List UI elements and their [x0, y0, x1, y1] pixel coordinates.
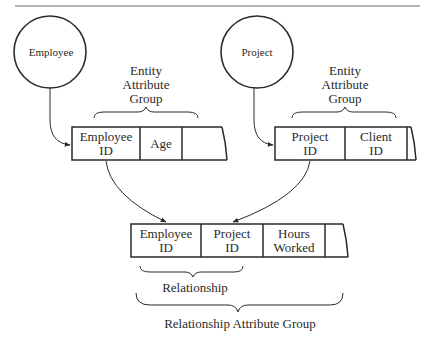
employee-id-cell: Employee — [80, 129, 133, 144]
employee-table: Employee ID Age — [72, 127, 227, 160]
label-line: Entity — [130, 63, 162, 78]
label-line: Group — [129, 91, 162, 106]
er-diagram: Employee Project Entity Attribute Group … — [0, 0, 431, 339]
employee-attribute-group-label: Entity Attribute Group — [123, 63, 170, 106]
rel-project-id-cell-2: ID — [225, 240, 239, 255]
client-id-cell-2: ID — [369, 143, 383, 158]
employee-to-table-arrow — [50, 88, 70, 145]
project-group-brace — [292, 107, 396, 118]
label-line: Attribute — [322, 77, 369, 92]
employee-id-cell-2: ID — [99, 143, 113, 158]
relationship-attribute-group-brace — [136, 293, 343, 312]
rel-employee-id-cell-2: ID — [159, 240, 173, 255]
rel-project-id-cell: Project — [214, 226, 251, 241]
project-entity: Project — [221, 16, 293, 88]
client-id-cell: Client — [360, 129, 392, 144]
project-entity-label: Project — [241, 46, 272, 58]
relationship-attribute-group-label: Relationship Attribute Group — [164, 316, 316, 331]
project-table: Project ID Client ID — [275, 127, 416, 160]
employee-id-to-relationship-arrow — [106, 161, 166, 222]
label-line: Entity — [329, 63, 361, 78]
employee-group-brace — [94, 107, 198, 118]
project-id-cell: Project — [292, 129, 329, 144]
employee-entity: Employee — [14, 16, 86, 88]
relationship-label: Relationship — [162, 280, 228, 295]
hours-worked-cell: Hours — [278, 226, 310, 241]
hours-worked-cell-2: Worked — [274, 240, 315, 255]
relationship-table: Employee ID Project ID Hours Worked — [131, 224, 348, 257]
employee-entity-label: Employee — [29, 46, 74, 58]
relationship-brace — [140, 266, 243, 277]
label-line: Group — [328, 91, 361, 106]
age-cell: Age — [150, 136, 172, 151]
label-line: Attribute — [123, 77, 170, 92]
project-attribute-group-label: Entity Attribute Group — [322, 63, 369, 106]
project-id-cell-2: ID — [303, 143, 317, 158]
rel-employee-id-cell: Employee — [140, 226, 193, 241]
project-id-to-relationship-arrow — [233, 161, 310, 222]
project-to-table-arrow — [254, 88, 273, 145]
